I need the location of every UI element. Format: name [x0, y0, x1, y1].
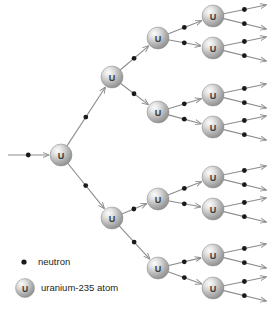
- neutron: [242, 86, 247, 91]
- neutron: [242, 168, 247, 173]
- neutron: [26, 153, 31, 158]
- atom-symbol: U: [155, 195, 162, 205]
- neutron: [182, 25, 187, 30]
- neutron: [83, 115, 88, 120]
- neutron: [182, 275, 187, 280]
- neutron: [242, 100, 247, 105]
- neutron: [182, 40, 187, 45]
- atom-symbol: U: [210, 123, 217, 133]
- uranium-235-atom: U: [147, 101, 169, 123]
- fission-chain-reaction-diagram: UUUUUUUUUUUUUUU neutron U uranium-235 at…: [0, 0, 269, 310]
- atom-symbol: U: [210, 44, 217, 54]
- uranium-235-atom: U: [147, 27, 169, 49]
- atom-symbol: U: [155, 264, 162, 274]
- neutron: [132, 56, 137, 61]
- neutron: [242, 53, 247, 58]
- neutron: [132, 91, 137, 96]
- uranium-235-atom: U: [50, 144, 72, 166]
- uranium-235-atom: U: [202, 277, 224, 299]
- neutron: [83, 183, 88, 188]
- uranium-235-atom: U: [101, 207, 123, 229]
- atom-symbol: U: [210, 205, 217, 215]
- neutron: [242, 7, 247, 12]
- neutron: [242, 279, 247, 284]
- uranium-235-atom: U: [202, 37, 224, 59]
- uranium-235-atom: U: [147, 188, 169, 210]
- neutron: [242, 132, 247, 137]
- neutron: [131, 207, 136, 212]
- atom-symbol: U: [155, 34, 162, 44]
- uranium-235-atom: U: [202, 5, 224, 27]
- atom-symbol: U: [109, 214, 116, 224]
- neutron: [242, 182, 247, 187]
- uranium-235-atom: U: [147, 257, 169, 279]
- neutron: [242, 39, 247, 44]
- atom-symbol: U: [210, 251, 217, 261]
- neutron: [242, 214, 247, 219]
- atom-symbol: U: [58, 151, 65, 161]
- neutron: [242, 293, 247, 298]
- neutron: [242, 21, 247, 26]
- neutron: [242, 246, 247, 251]
- legend-uranium-label: uranium-235 atom: [41, 282, 118, 293]
- uranium-235-atom: U: [202, 116, 224, 138]
- fission-diagram-canvas: UUUUUUUUUUUUUUU neutron U uranium-235 at…: [0, 0, 269, 310]
- atom-symbol: U: [210, 284, 217, 294]
- neutron: [242, 260, 247, 265]
- atom-symbol: U: [155, 108, 162, 118]
- uranium-235-atom: U: [101, 66, 123, 88]
- uranium-235-atom: U: [202, 244, 224, 266]
- neutron: [182, 101, 187, 106]
- neutron: [132, 240, 137, 245]
- legend-neutron-label: neutron: [38, 256, 70, 267]
- atom-symbol: U: [210, 12, 217, 22]
- neutron: [182, 186, 187, 191]
- neutron: [182, 117, 187, 122]
- legend-atom-symbol: U: [22, 284, 28, 294]
- atom-symbol: U: [109, 73, 116, 83]
- atom-symbol: U: [210, 173, 217, 183]
- legend: neutron U uranium-235 atom: [16, 256, 119, 298]
- uranium-235-atom: U: [202, 166, 224, 188]
- uranium-atoms-layer: UUUUUUUUUUUUUUU: [50, 5, 224, 299]
- atom-symbol: U: [210, 91, 217, 101]
- neutron: [242, 200, 247, 205]
- neutron-icon: [21, 259, 26, 264]
- neutron: [182, 259, 187, 264]
- neutron: [242, 118, 247, 123]
- uranium-235-atom: U: [202, 198, 224, 220]
- neutron: [182, 201, 187, 206]
- uranium-235-atom: U: [202, 84, 224, 106]
